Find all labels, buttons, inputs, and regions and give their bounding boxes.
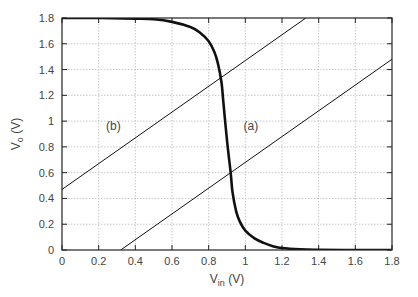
x-tick-label: 1.8: [384, 255, 399, 267]
x-tick-label: 1.2: [274, 255, 289, 267]
x-tick-label: 1.6: [348, 255, 363, 267]
annotation-label: (a): [243, 119, 258, 133]
y-tick-label: 1.4: [39, 64, 54, 76]
series-a: [121, 59, 392, 250]
axis-ticks: 00.20.40.60.811.21.41.61.800.20.40.60.81…: [39, 12, 400, 267]
y-axis-label: Vo (V): [9, 118, 25, 150]
y-tick-label: 1.8: [39, 12, 54, 24]
vtc-chart: 00.20.40.60.811.21.41.61.800.20.40.60.81…: [0, 0, 418, 297]
x-tick-label: 0: [59, 255, 65, 267]
x-axis-label: Vin (V): [210, 272, 244, 288]
x-tick-label: 1.4: [311, 255, 326, 267]
x-tick-label: 0.4: [128, 255, 143, 267]
y-tick-label: 0.8: [39, 141, 54, 153]
y-tick-label: 1.2: [39, 89, 54, 101]
annotation-label: (b): [106, 119, 121, 133]
y-tick-label: 0.2: [39, 218, 54, 230]
x-tick-label: 0.6: [164, 255, 179, 267]
y-tick-label: 0.6: [39, 167, 54, 179]
y-tick-label: 0: [48, 244, 54, 256]
data-series: [62, 18, 392, 250]
y-tick-label: 1.6: [39, 38, 54, 50]
x-tick-label: 0.8: [201, 255, 216, 267]
x-tick-label: 0.2: [91, 255, 106, 267]
series-VTC: [62, 18, 392, 250]
y-tick-label: 1: [48, 115, 54, 127]
y-tick-label: 0.4: [39, 192, 54, 204]
x-tick-label: 1: [242, 255, 248, 267]
